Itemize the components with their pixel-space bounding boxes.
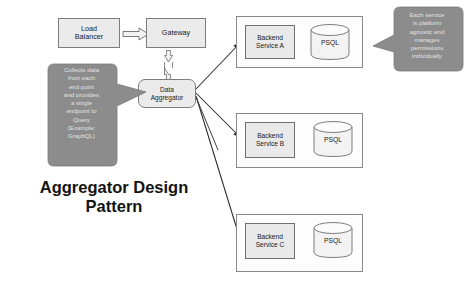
load-balancer-label: Load Balancer — [75, 25, 103, 41]
backend-service-a-label: Backend Service A — [256, 34, 284, 50]
aggregator-to-service-b — [196, 93, 240, 137]
backend-service-b-node[interactable]: Backend Service B — [245, 122, 295, 158]
backend-service-b-label: Backend Service B — [256, 132, 284, 148]
left-callout-text: Collects data from each end point and pr… — [44, 66, 119, 141]
database-psql-c-label: PSQL — [312, 237, 354, 244]
database-psql-b[interactable]: PSQL — [312, 120, 354, 158]
gateway-label: Gateway — [162, 29, 190, 37]
gateway-aggregator-double-arrow — [165, 51, 173, 80]
diagram-canvas: Load Balancer Gateway Data Aggregator Co… — [0, 0, 464, 287]
database-psql-c[interactable]: PSQL — [312, 221, 354, 259]
database-psql-b-label: PSQL — [312, 136, 354, 143]
data-aggregator-label: Data Aggregator — [151, 86, 184, 101]
backend-service-c-label: Backend Service C — [256, 233, 285, 249]
backend-service-a-node[interactable]: Backend Service A — [245, 25, 295, 59]
diagram-title: Aggregator Design Pattern — [6, 178, 222, 216]
aggregator-fan-line-extra — [196, 97, 218, 150]
load-balancer-node[interactable]: Load Balancer — [58, 18, 120, 48]
database-psql-a-label: PSQL — [309, 39, 351, 46]
aggregator-to-service-a — [196, 43, 240, 89]
gateway-node[interactable]: Gateway — [146, 18, 206, 48]
backend-service-c-node[interactable]: Backend Service C — [245, 223, 295, 259]
database-psql-a[interactable]: PSQL — [309, 23, 351, 61]
aggregator-to-service-c — [196, 96, 240, 239]
right-callout-text: Each service is platform agnostic and ma… — [394, 11, 460, 61]
